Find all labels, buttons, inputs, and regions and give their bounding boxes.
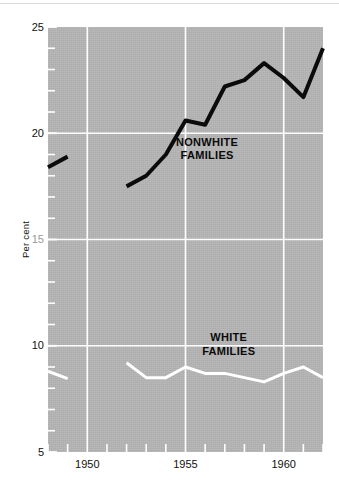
y-axis-tick-label-10: 10 <box>20 340 44 351</box>
chart-figure: 25 20 15 10 5 1950 1955 1960 Per cent NO… <box>0 0 339 488</box>
y-axis-tick-label-5: 5 <box>20 447 44 458</box>
gridlines-group <box>48 27 323 452</box>
series-annotation-white-line1: WHITE <box>210 331 247 343</box>
y-axis-tick-label-25: 25 <box>20 22 44 33</box>
series-annotation-nonwhite-line2: FAMILIES <box>181 149 234 161</box>
y-axis-tick-label-20: 20 <box>20 128 44 139</box>
series-line-white-seg0 <box>48 371 68 378</box>
series-line-nonwhite-seg1 <box>127 48 323 186</box>
series-annotation-white: WHITEFAMILIES <box>182 331 276 358</box>
x-axis-tick-label-1950: 1950 <box>65 459 109 470</box>
series-annotation-nonwhite: NONWHITEFAMILIES <box>155 136 259 163</box>
series-line-white-seg1 <box>127 363 323 382</box>
chart-canvas <box>0 0 339 488</box>
series-line-nonwhite-seg0 <box>48 157 68 168</box>
x-axis-tick-label-1955: 1955 <box>164 459 208 470</box>
x-axis-tick-label-1960: 1960 <box>262 459 306 470</box>
y-axis-title: Per cent <box>20 221 31 258</box>
series-annotation-white-line2: FAMILIES <box>202 345 255 357</box>
series-annotation-nonwhite-line1: NONWHITE <box>176 136 238 148</box>
